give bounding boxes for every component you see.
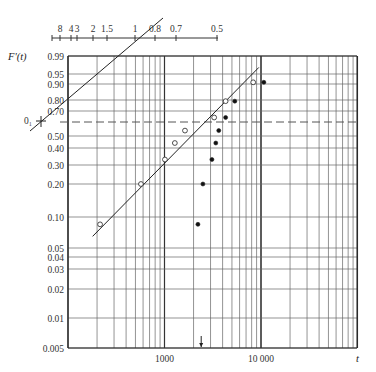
y-tick-labels: 0.990.950.900.800.700.500.400.300.200.10… bbox=[43, 52, 65, 354]
scale-tick-label: 0.5 bbox=[211, 24, 223, 34]
data-point-open bbox=[183, 128, 188, 133]
weibull-probability-chart: 0.990.950.900.800.700.500.400.300.200.10… bbox=[0, 0, 376, 372]
y-tick-label: 0.90 bbox=[47, 80, 64, 90]
data-point-filled bbox=[196, 222, 200, 226]
scale-tick-label: 0.7 bbox=[170, 24, 182, 34]
data-point-filled bbox=[214, 141, 218, 145]
data-point-open bbox=[139, 182, 144, 187]
x-tick-label: 1000 bbox=[155, 354, 174, 364]
scale-tick-label: 4 bbox=[69, 24, 74, 34]
data-point-open bbox=[98, 222, 103, 227]
scale-tick-label: 1 bbox=[133, 24, 138, 34]
y-tick-label: 0.70 bbox=[47, 107, 64, 117]
y-axis-label: F'(t) bbox=[7, 51, 27, 63]
lines bbox=[30, 18, 259, 347]
data-points bbox=[98, 80, 266, 227]
origin-marker-label: 0₁ bbox=[24, 116, 32, 126]
y-tick-label: 0.03 bbox=[47, 265, 64, 275]
scale-tick-label: 2 bbox=[91, 24, 96, 34]
scale-tick-label: 8 bbox=[58, 24, 63, 34]
y-tick-label: 0.02 bbox=[47, 285, 64, 295]
data-point-open bbox=[251, 80, 256, 85]
data-point-open bbox=[172, 141, 177, 146]
y-tick-label: 0.99 bbox=[47, 52, 64, 62]
data-point-filled bbox=[217, 129, 221, 133]
y-tick-label: 0.005 bbox=[43, 344, 65, 354]
x-axis-label: t bbox=[356, 353, 360, 364]
data-point-filled bbox=[224, 115, 228, 119]
shape-parameter-scale: 84321.510.80.70.5 bbox=[52, 24, 223, 41]
y-tick-label: 0.50 bbox=[47, 132, 64, 142]
data-point-filled bbox=[233, 99, 237, 103]
scale-tick-label: 0.8 bbox=[149, 24, 161, 34]
scale-tick-label: 3 bbox=[75, 24, 80, 34]
y-tick-label: 0.20 bbox=[47, 180, 64, 190]
y-tick-label: 0.40 bbox=[47, 144, 64, 154]
data-point-open bbox=[223, 99, 228, 104]
data-point-filled bbox=[210, 158, 214, 162]
data-point-open bbox=[212, 115, 217, 120]
y-tick-label: 0.10 bbox=[47, 213, 64, 223]
y-tick-label: 0.30 bbox=[47, 161, 64, 171]
scale-tick-label: 1.5 bbox=[101, 24, 113, 34]
data-point-open bbox=[163, 157, 168, 162]
grid bbox=[68, 56, 358, 348]
x-tick-label: 10 000 bbox=[248, 354, 274, 364]
y-tick-label: 0.01 bbox=[47, 314, 64, 324]
y-tick-label: 0.04 bbox=[47, 253, 64, 263]
y-tick-label: 0.95 bbox=[47, 70, 64, 80]
data-point-filled bbox=[262, 80, 266, 84]
arrow-head-icon bbox=[199, 343, 203, 347]
fitted-line bbox=[93, 67, 259, 236]
data-point-filled bbox=[201, 182, 205, 186]
x-tick-labels: 100010 000 bbox=[155, 354, 274, 364]
